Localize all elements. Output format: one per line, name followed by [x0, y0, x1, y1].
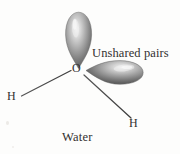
figure-caption: Water: [62, 131, 93, 144]
scan-artifact-speck: [12, 146, 14, 148]
atom-label-oxygen: O: [72, 62, 81, 74]
atom-label-hydrogen-left: H: [7, 90, 16, 102]
bond-o-h-left: [22, 71, 72, 97]
unshared-pairs-annotation: Unshared pairs: [92, 47, 169, 60]
water-molecule-figure: O H H Unshared pairs Water: [0, 0, 180, 154]
unshared-pair-lobe-horizontal: [86, 61, 143, 85]
atom-label-hydrogen-right: H: [129, 117, 138, 129]
scan-artifact-speck: [6, 121, 9, 125]
